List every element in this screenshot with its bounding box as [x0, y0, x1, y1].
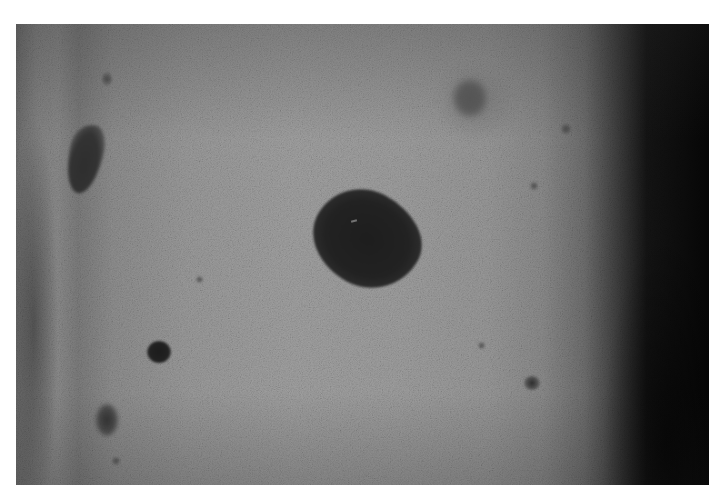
speck — [478, 342, 485, 349]
small-dark-spot — [524, 376, 540, 390]
speck — [561, 124, 571, 134]
small-round-dark-spot — [147, 341, 171, 363]
speck — [102, 72, 112, 86]
speck — [112, 457, 120, 465]
faint-halo-lesion — [452, 78, 488, 118]
speck — [196, 276, 203, 283]
faint-lesion — [96, 404, 118, 436]
speck — [530, 182, 538, 190]
skin-photograph — [16, 24, 709, 485]
